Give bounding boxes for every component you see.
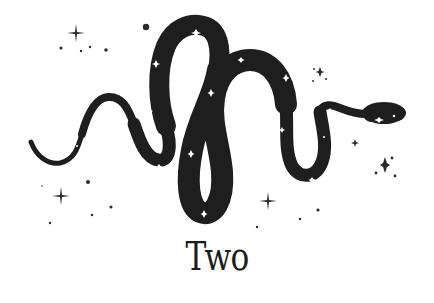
caption-title: Two (48, 232, 387, 280)
snake-icon (31, 25, 366, 213)
